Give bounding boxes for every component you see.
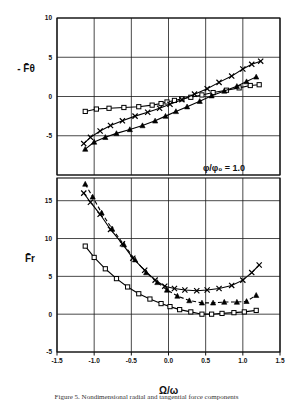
marker-square xyxy=(220,311,224,315)
ytick-label-upper: 5 xyxy=(48,54,52,61)
marker-square xyxy=(137,292,141,296)
marker-square xyxy=(92,255,96,259)
marker-triangle xyxy=(83,181,88,186)
marker-square xyxy=(232,311,236,315)
marker-square xyxy=(257,83,261,87)
scientific-figure: -50510-5051015-1.5-1.0-0.50.00.51.01.5- … xyxy=(0,0,293,402)
lower-ylabel: F̄r xyxy=(25,253,35,264)
series-line xyxy=(85,246,256,314)
marker-square xyxy=(103,267,107,271)
xtick-label: 1.0 xyxy=(238,357,247,364)
marker-square xyxy=(189,310,193,314)
marker-cross xyxy=(98,128,103,133)
xtick-label: -1.5 xyxy=(51,357,63,364)
xtick-label: 0.0 xyxy=(164,357,173,364)
marker-square xyxy=(150,103,154,107)
marker-triangle xyxy=(254,74,259,79)
marker-cross xyxy=(108,123,113,128)
series-group-upper-panel xyxy=(81,59,263,152)
grid-lines-upper-panel xyxy=(57,18,280,175)
marker-triangle xyxy=(254,293,259,298)
annotation-phi-ratio: φ/φ₀ = 1.0 xyxy=(203,163,245,173)
marker-square xyxy=(242,310,246,314)
ytick-label-lower: 15 xyxy=(45,197,53,204)
xtick-label: 1.5 xyxy=(275,357,284,364)
series-line xyxy=(85,77,256,149)
ytick-label-upper: 0 xyxy=(48,93,52,100)
marker-cross xyxy=(216,80,221,85)
ytick-label-upper: -5 xyxy=(46,132,52,139)
ytick-label-lower: 5 xyxy=(48,273,52,280)
series-cross xyxy=(81,59,263,147)
marker-cross xyxy=(229,73,234,78)
marker-square xyxy=(200,93,204,97)
marker-square xyxy=(210,312,214,316)
figure-caption: Figure 5. Nondimensional radial and tang… xyxy=(0,393,293,402)
marker-cross xyxy=(120,118,125,123)
ytick-label-lower: 10 xyxy=(45,235,53,242)
xtick-label: -1.0 xyxy=(89,357,101,364)
marker-cross xyxy=(157,106,162,111)
marker-square xyxy=(83,244,87,248)
marker-square xyxy=(137,105,141,109)
marker-triangle xyxy=(175,293,180,298)
marker-square xyxy=(159,101,163,105)
marker-square xyxy=(94,107,98,111)
marker-square xyxy=(200,312,204,316)
marker-cross xyxy=(81,141,86,146)
marker-cross xyxy=(81,191,86,196)
ytick-label-lower: -5 xyxy=(46,348,52,355)
marker-square xyxy=(148,297,152,301)
marker-square xyxy=(159,301,163,305)
upper-ylabel: - F̄θ xyxy=(17,63,35,74)
marker-square xyxy=(178,308,182,312)
marker-square xyxy=(254,308,258,312)
marker-square xyxy=(114,277,118,281)
xtick-label: -0.5 xyxy=(126,357,138,364)
series-triangle xyxy=(83,74,259,151)
marker-square xyxy=(107,106,111,110)
ytick-label-upper: 10 xyxy=(45,14,53,21)
marker-cross xyxy=(249,62,254,67)
series-group-lower-panel xyxy=(81,181,262,316)
marker-cross xyxy=(257,262,262,267)
grid-lines-lower-panel xyxy=(57,178,280,352)
marker-square xyxy=(122,105,126,109)
figure-container: -50510-5051015-1.5-1.0-0.50.00.51.01.5- … xyxy=(0,0,293,402)
marker-triangle xyxy=(244,79,249,84)
marker-square xyxy=(168,305,172,309)
marker-triangle xyxy=(99,210,104,215)
marker-cross xyxy=(249,270,254,275)
marker-cross xyxy=(258,59,263,64)
series-square xyxy=(83,244,258,316)
marker-square xyxy=(83,109,87,113)
marker-square xyxy=(126,285,130,289)
ytick-label-lower: 0 xyxy=(48,311,52,318)
xtick-label: 0.5 xyxy=(201,357,210,364)
series-cross xyxy=(81,191,262,294)
